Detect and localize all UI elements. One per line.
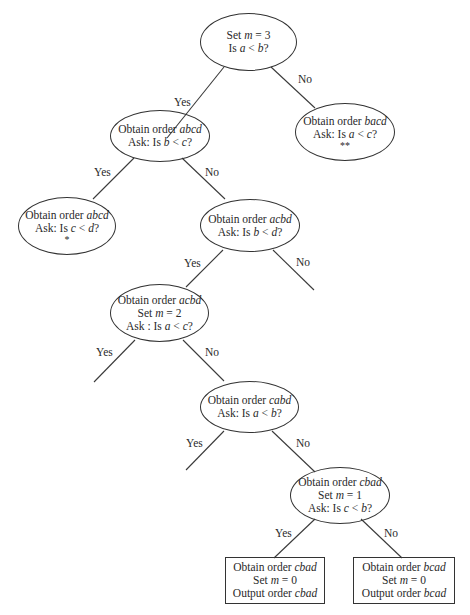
- star-marker: *: [65, 235, 70, 244]
- edge-label-yes: Yes: [94, 166, 111, 179]
- node-line: Ask: Is a < c?: [313, 128, 377, 141]
- node-line: Obtain order acbd: [118, 294, 202, 307]
- node-line: Output order cbad: [233, 587, 317, 600]
- edge-label-yes: Yes: [186, 437, 203, 450]
- node-line: Ask: Is c < d?: [35, 222, 99, 235]
- edge-label-no: No: [298, 73, 312, 86]
- node-bacd: Obtain order bacd Ask: Is a < c? **: [295, 103, 395, 161]
- node-line: Ask : Is a < c?: [126, 320, 193, 333]
- edge-label-no: No: [205, 346, 219, 359]
- node-line: Ask: Is b < c?: [128, 136, 192, 149]
- edge-label-no: No: [296, 437, 310, 450]
- node-line: Ask: Is a < b?: [217, 407, 282, 420]
- edge-label-yes: Yes: [275, 527, 292, 540]
- double-star-marker: **: [340, 141, 350, 150]
- node-root: Set m = 3 Is a < b?: [200, 13, 297, 71]
- edge-label-no: No: [384, 527, 398, 540]
- edge-label-no: No: [296, 256, 310, 269]
- node-line: Set m = 0: [382, 574, 426, 587]
- node-cbad-set-m-1: Obtain order cbad Set m = 1 Ask: Is c < …: [290, 467, 390, 524]
- node-cabd: Obtain order cabd Ask: Is a < b?: [200, 381, 299, 433]
- node-line: Set m = 1: [318, 489, 362, 502]
- node-line: Obtain order bcad: [362, 561, 446, 574]
- node-line: Ask: Is c < b?: [308, 502, 372, 515]
- edge-label-no: No: [205, 166, 219, 179]
- node-line: Output order bcad: [362, 587, 446, 600]
- node-abcd-ask-c-d: Obtain order abcd Ask: Is c < d? *: [18, 197, 116, 255]
- tree-edges: [0, 0, 470, 615]
- node-line: Set m = 0: [253, 574, 297, 587]
- node-acbd-ask-b-d: Obtain order acbd Ask: Is b < d?: [200, 199, 300, 252]
- edge-label-yes: Yes: [184, 257, 201, 270]
- node-line: Set m = 2: [138, 307, 182, 320]
- node-acbd-set-m-2: Obtain order acbd Set m = 2 Ask : Is a <…: [110, 284, 209, 342]
- node-line: Obtain order cbad: [298, 476, 382, 489]
- edge-label-yes: Yes: [96, 346, 113, 359]
- node-line: Obtain order acbd: [208, 213, 292, 226]
- node-root-line-2: Is a < b?: [228, 42, 268, 55]
- leaf-output-bcad: Obtain order bcad Set m = 0 Output order…: [353, 557, 455, 604]
- node-line: Ask: Is b < d?: [218, 226, 283, 239]
- node-line: Obtain order abcd: [118, 123, 202, 136]
- edge-label-yes: Yes: [174, 96, 191, 109]
- node-abcd-ask-b-c: Obtain order abcd Ask: Is b < c?: [110, 110, 210, 162]
- node-line: Obtain order cabd: [208, 394, 292, 407]
- node-line: Obtain order abcd: [25, 209, 109, 222]
- node-root-line-1: Set m = 3: [227, 29, 271, 42]
- leaf-output-cbad: Obtain order cbad Set m = 0 Output order…: [225, 557, 325, 604]
- node-line: Obtain order cbad: [233, 561, 317, 574]
- node-line: Obtain order bacd: [303, 115, 387, 128]
